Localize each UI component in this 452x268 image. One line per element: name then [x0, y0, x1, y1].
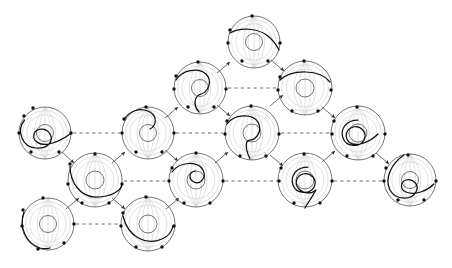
- boundary-marked-point: [69, 131, 72, 134]
- boundary-marked-point: [277, 179, 280, 182]
- annulus-node[interactable]: [17, 106, 72, 159]
- boundary-marked-point: [406, 153, 409, 156]
- boundary-marked-point: [194, 151, 197, 154]
- transition-arrow: [62, 152, 74, 163]
- boundary-marked-point: [29, 150, 32, 153]
- transition-arrow: [215, 152, 228, 163]
- transition-arrow: [376, 153, 389, 164]
- boundary-marked-point: [93, 152, 96, 155]
- boundary-marked-point: [224, 87, 227, 90]
- ghost-arcs: [173, 153, 219, 207]
- boundary-marked-point: [223, 132, 226, 135]
- boundary-marked-point: [278, 75, 281, 78]
- ghost-arcs: [72, 153, 118, 207]
- boundary-marked-point: [238, 154, 241, 157]
- boundary-marked-point: [240, 59, 243, 62]
- transition-arrow: [217, 62, 230, 73]
- node-curve-system: [388, 155, 434, 198]
- annulus-node[interactable]: [226, 14, 281, 68]
- boundary-marked-point: [249, 104, 252, 107]
- boundary-marked-point: [17, 131, 20, 134]
- ghost-arcs: [125, 197, 171, 251]
- boundary-marked-point: [302, 152, 305, 155]
- transition-arrow: [271, 60, 284, 71]
- boundary-marked-point: [371, 154, 374, 157]
- boundary-marked-point: [330, 132, 333, 135]
- boundary-marked-point: [329, 88, 332, 91]
- boundary-marked-point: [228, 28, 231, 31]
- boundary-marked-point: [120, 182, 123, 185]
- boundary-marked-point: [80, 201, 83, 204]
- boundary-marked-point: [302, 59, 305, 62]
- boundary-marked-point: [167, 179, 170, 182]
- node-curve-system: [70, 166, 122, 197]
- boundary-marked-point: [144, 105, 147, 108]
- annulus-node[interactable]: [20, 196, 75, 250]
- boundary-marked-point: [134, 150, 137, 153]
- ghost-arcs: [126, 107, 171, 159]
- transition-arrow: [112, 152, 125, 163]
- boundary-marked-point: [121, 211, 124, 214]
- transition-arrow: [270, 155, 283, 166]
- boundary-marked-point: [212, 105, 215, 108]
- boundary-marked-point: [107, 201, 110, 204]
- boundary-marked-point: [384, 166, 387, 169]
- boundary-marked-point: [316, 109, 319, 112]
- boundary-marked-point: [174, 74, 177, 77]
- boundary-marked-point: [221, 179, 224, 182]
- boundary-marked-point: [172, 87, 175, 90]
- transition-arrow: [165, 150, 178, 161]
- boundary-marked-point: [66, 182, 69, 185]
- boundary-marked-point: [160, 150, 163, 153]
- boundary-marked-point: [355, 105, 358, 108]
- boundary-marked-point: [250, 14, 253, 17]
- boundary-marked-point: [134, 245, 137, 248]
- boundary-marked-point: [122, 117, 125, 120]
- boundary-marked-point: [62, 241, 65, 244]
- boundary-marked-point: [22, 114, 25, 117]
- boundary-marked-point: [332, 119, 335, 122]
- annulus-node[interactable]: [276, 59, 332, 115]
- annulus-node[interactable]: [119, 195, 175, 251]
- annulus-node[interactable]: [382, 153, 437, 206]
- transition-arrow: [217, 105, 230, 116]
- boundary-marked-point: [172, 131, 175, 134]
- transition-arrow: [322, 107, 335, 118]
- ghost-arcs: [178, 62, 223, 114]
- boundary-marked-point: [21, 208, 24, 211]
- boundary-marked-point: [292, 201, 295, 204]
- annulus-node[interactable]: [330, 105, 386, 160]
- annulus-node[interactable]: [120, 105, 175, 159]
- boundary-marked-point: [396, 198, 399, 201]
- boundary-marked-point: [422, 198, 425, 201]
- boundary-marked-point: [72, 222, 75, 225]
- boundary-marked-point: [434, 179, 437, 182]
- annulus-node[interactable]: [172, 60, 227, 114]
- ghost-arcs: [282, 61, 328, 115]
- annulus-node[interactable]: [277, 152, 333, 208]
- boundary-marked-point: [144, 195, 147, 198]
- diagram-canvas: [0, 0, 452, 268]
- boundary-marked-point: [330, 179, 333, 182]
- boundary-marked-point: [290, 109, 293, 112]
- boundary-marked-point: [264, 154, 267, 157]
- boundary-marked-point: [226, 41, 229, 44]
- ghost-arcs: [229, 106, 275, 160]
- ghost-arcs: [232, 16, 277, 68]
- boundary-marked-point: [160, 245, 163, 248]
- boundary-marked-point: [318, 201, 321, 204]
- boundary-marked-point: [186, 105, 189, 108]
- transition-arrow: [165, 107, 178, 118]
- boundary-marked-point: [345, 154, 348, 157]
- boundary-marked-point: [208, 201, 211, 204]
- ghost-arcs: [282, 153, 328, 207]
- ghost-arcs: [23, 107, 68, 159]
- annulus-lattice-diagram: [0, 0, 452, 268]
- boundary-marked-point: [196, 60, 199, 63]
- boundary-marked-point: [225, 119, 228, 122]
- boundary-marked-point: [383, 132, 386, 135]
- annulus-node[interactable]: [223, 104, 280, 160]
- boundary-marked-point: [266, 59, 269, 62]
- boundary-marked-point: [31, 106, 34, 109]
- boundary-marked-point: [68, 162, 71, 165]
